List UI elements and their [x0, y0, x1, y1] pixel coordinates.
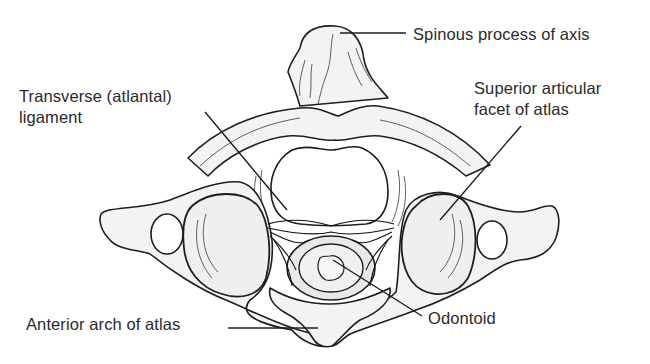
- label-superior-facet-line1: Superior articular: [474, 78, 601, 99]
- label-transverse-ligament-line1: Transverse (atlantal): [19, 86, 172, 107]
- right-superior-facet: [402, 194, 476, 294]
- left-transverse-foramen: [151, 214, 183, 254]
- label-transverse-ligament-line2: ligament: [19, 107, 172, 128]
- label-transverse-ligament: Transverse (atlantal) ligament: [19, 86, 172, 128]
- label-anterior-arch: Anterior arch of atlas: [26, 314, 180, 335]
- anatomy-diagram: Spinous process of axis Transverse (atla…: [0, 0, 650, 364]
- label-superior-articular-facet: Superior articular facet of atlas: [474, 78, 601, 120]
- odontoid-process: [287, 236, 375, 300]
- spinous-process: [288, 26, 388, 106]
- right-transverse-foramen: [477, 221, 507, 259]
- vertebral-canal: [271, 147, 388, 226]
- label-superior-facet-line2: facet of atlas: [474, 99, 601, 120]
- label-odontoid: Odontoid: [428, 308, 496, 329]
- label-spinous-process: Spinous process of axis: [413, 24, 590, 45]
- vertebra-illustration: [0, 0, 650, 364]
